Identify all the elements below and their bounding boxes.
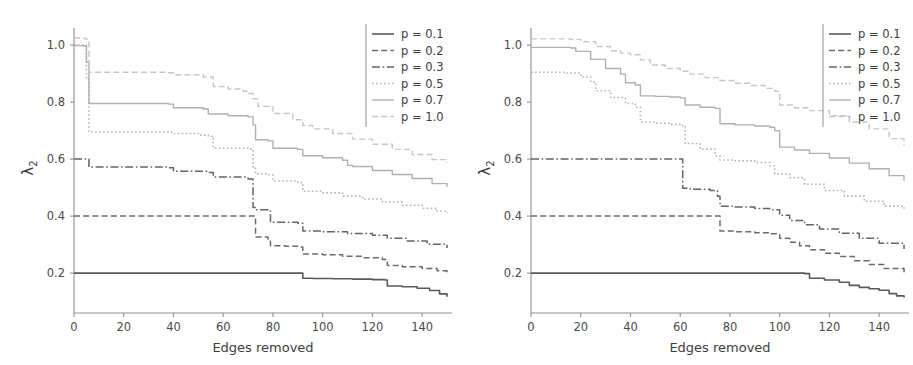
legend-label[interactable]: p = 1.0 bbox=[858, 110, 901, 124]
series-lines bbox=[531, 39, 904, 298]
x-tick-label: 140 bbox=[411, 320, 433, 334]
chart-svg-right: 0.20.40.60.81.0 020406080100120140 Edges… bbox=[457, 0, 913, 365]
x-tick-label: 80 bbox=[266, 320, 281, 334]
y-tick-label: 0.8 bbox=[504, 95, 522, 109]
legend[interactable]: p = 0.1p = 0.2p = 0.3p = 0.5p = 0.7p = 1… bbox=[823, 24, 901, 127]
series-line bbox=[74, 159, 447, 248]
y-tick-label: 0.6 bbox=[47, 152, 65, 166]
series-line bbox=[531, 39, 904, 146]
x-tick-label: 20 bbox=[116, 320, 131, 334]
x-tick-label: 120 bbox=[818, 320, 840, 334]
legend-label[interactable]: p = 0.5 bbox=[401, 77, 444, 91]
legend-label[interactable]: p = 0.1 bbox=[401, 27, 444, 41]
figure-root: 0.20.40.60.81.0 020406080100120140 Edges… bbox=[0, 0, 913, 365]
y-tick-label: 1.0 bbox=[47, 38, 65, 52]
x-axis-title: Edges removed bbox=[669, 340, 770, 355]
series-line bbox=[74, 45, 447, 213]
y-tick-label: 0.8 bbox=[47, 95, 65, 109]
x-tick-label: 0 bbox=[527, 320, 534, 334]
legend-label[interactable]: p = 0.2 bbox=[401, 44, 444, 58]
legend-label[interactable]: p = 0.7 bbox=[858, 93, 901, 107]
series-line bbox=[74, 273, 447, 297]
legend-label[interactable]: p = 0.3 bbox=[858, 60, 901, 74]
x-tick-label: 120 bbox=[361, 320, 383, 334]
series-lines bbox=[74, 38, 447, 297]
x-tick-label: 60 bbox=[673, 320, 688, 334]
legend-label[interactable]: p = 0.7 bbox=[401, 93, 444, 107]
legend-label[interactable]: p = 0.1 bbox=[858, 27, 901, 41]
x-tick-marks bbox=[531, 313, 879, 317]
x-tick-labels: 020406080100120140 bbox=[527, 320, 890, 334]
series-line bbox=[74, 216, 447, 272]
y-tick-label: 0.4 bbox=[47, 209, 65, 223]
y-tick-marks bbox=[70, 45, 74, 273]
chart-svg-left: 0.20.40.60.81.0 020406080100120140 Edges… bbox=[0, 0, 456, 365]
legend-label[interactable]: p = 1.0 bbox=[401, 110, 444, 124]
chart-panel-right: 0.20.40.60.81.0 020406080100120140 Edges… bbox=[457, 0, 913, 365]
series-line bbox=[531, 273, 904, 298]
series-line bbox=[531, 159, 904, 249]
y-tick-labels: 0.20.40.60.81.0 bbox=[504, 38, 522, 280]
x-tick-label: 40 bbox=[166, 320, 181, 334]
x-tick-label: 80 bbox=[723, 320, 738, 334]
y-tick-label: 0.2 bbox=[504, 266, 522, 280]
x-tick-label: 60 bbox=[216, 320, 231, 334]
series-line bbox=[531, 216, 904, 273]
x-tick-label: 100 bbox=[312, 320, 334, 334]
y-tick-labels: 0.20.40.60.81.0 bbox=[47, 38, 65, 280]
x-axis-title: Edges removed bbox=[212, 340, 313, 355]
legend[interactable]: p = 0.1p = 0.2p = 0.3p = 0.5p = 0.7p = 1… bbox=[366, 24, 444, 127]
x-tick-label: 0 bbox=[70, 320, 77, 334]
legend-label[interactable]: p = 0.5 bbox=[858, 77, 901, 91]
y-tick-label: 0.6 bbox=[504, 152, 522, 166]
legend-label[interactable]: p = 0.3 bbox=[401, 60, 444, 74]
y-axis-title: λ2 bbox=[476, 160, 496, 175]
y-tick-label: 0.2 bbox=[47, 266, 65, 280]
x-tick-marks bbox=[74, 313, 422, 317]
legend-label[interactable]: p = 0.2 bbox=[858, 44, 901, 58]
x-tick-labels: 020406080100120140 bbox=[70, 320, 433, 334]
y-axis-title: λ2 bbox=[19, 160, 39, 175]
x-tick-label: 140 bbox=[868, 320, 890, 334]
chart-panel-left: 0.20.40.60.81.0 020406080100120140 Edges… bbox=[0, 0, 456, 365]
y-tick-label: 0.4 bbox=[504, 209, 522, 223]
y-tick-marks bbox=[527, 45, 531, 273]
x-tick-label: 40 bbox=[623, 320, 638, 334]
x-tick-label: 100 bbox=[769, 320, 791, 334]
x-tick-label: 20 bbox=[573, 320, 588, 334]
y-tick-label: 1.0 bbox=[504, 38, 522, 52]
